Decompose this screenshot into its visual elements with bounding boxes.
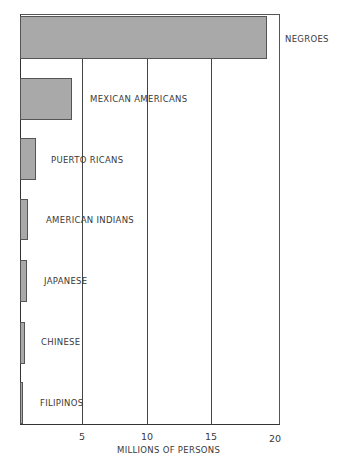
label-chinese: CHINESE [41,337,80,347]
label-american-indians: AMERICAN INDIANS [46,215,134,225]
tick-10: 10 [141,431,153,442]
bar-mexican-americans [20,78,72,120]
bar-filipinos [20,382,23,424]
bar-chinese [20,322,25,364]
label-negroes: NEGROES [285,34,329,44]
bar-japanese [20,260,27,302]
gridline-10 [147,59,148,425]
bar-puerto-ricans [20,138,36,180]
bar-american-indians [20,199,28,240]
gridline-5 [82,59,83,425]
label-filipinos: FILIPINOS [40,398,83,408]
gridline-15 [211,59,212,425]
tick-20: 20 [269,433,281,444]
label-mexican-americans: MEXICAN AMERICANS [90,94,187,104]
x-axis-label: MILLIONS OF PERSONS [117,445,220,455]
tick-5: 5 [79,431,85,442]
label-japanese: JAPANESE [44,276,87,286]
population-bar-chart: NEGROES MEXICAN AMERICANS PUERTO RICANS … [0,0,351,468]
tick-15: 15 [205,431,217,442]
label-puerto-ricans: PUERTO RICANS [51,155,123,165]
bar-negroes [20,16,267,59]
